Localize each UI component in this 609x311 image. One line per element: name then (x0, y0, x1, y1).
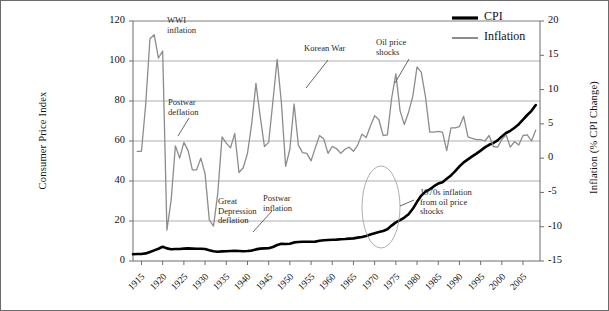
right-axis-tick-label: -15 (548, 254, 574, 265)
annotation-leader-oil-price-shocks (395, 59, 409, 83)
annotation-postwar-inflation: Postwar inflation (263, 194, 292, 213)
left-axis-tick-label: 100 (99, 54, 125, 65)
left-axis-tick-label: 20 (99, 214, 125, 225)
legend-label-inflation: Inflation (484, 29, 525, 44)
annotation-great-depression-deflation: Great Depression deflation (218, 197, 257, 226)
left-axis-tick-label: 80 (99, 94, 125, 105)
legend-label-cpi: CPI (484, 9, 503, 24)
right-axis-tick-label: 10 (548, 83, 574, 94)
right-axis-tick-label: 0 (548, 151, 574, 162)
right-axis-tick-label: 5 (548, 117, 574, 128)
annotation-leader-korean-war (306, 60, 328, 88)
right-axis-title: Inflation (% CPI Change) (588, 53, 599, 223)
left-axis-tick-label: 120 (99, 14, 125, 25)
left-axis-title: Consumer Price Index (37, 61, 48, 221)
left-axis-tick-label: 60 (99, 134, 125, 145)
highlight-ellipse-1970s (362, 166, 400, 248)
annotation-korean-war: Korean War (304, 44, 345, 54)
right-axis-tick-label: 20 (548, 14, 574, 25)
right-axis-tick-label: -10 (548, 220, 574, 231)
right-axis-tick-label: -5 (548, 185, 574, 196)
right-axis-tick-label: 15 (548, 48, 574, 59)
annotation-wwi-inflation: WWI inflation (167, 16, 196, 35)
series-line-inflation (137, 35, 536, 230)
left-axis-tick-label: 0 (99, 254, 125, 265)
annotation-postwar-deflation: Postwar deflation (168, 98, 199, 117)
annotation-seventies-inflation: 1970s inflation from oil price shocks (420, 188, 472, 217)
annotation-oil-price-shocks: Oil price shocks (376, 38, 406, 57)
annotation-leader-postwar-deflation (178, 118, 189, 136)
left-axis-tick-label: 40 (99, 174, 125, 185)
annotation-leader-seventies-inflation (400, 200, 414, 206)
series-line-cpi (133, 105, 536, 254)
